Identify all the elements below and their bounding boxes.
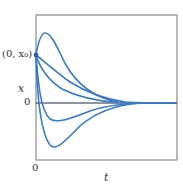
curve-overshoot — [36, 33, 177, 103]
y-axis-label: x — [18, 83, 24, 94]
curve-mid-low — [36, 55, 177, 103]
start-point-label: (0, x₀) — [2, 49, 32, 59]
x-zero-tick-label: 0 — [32, 163, 38, 173]
y-zero-tick-label: 0 — [24, 97, 30, 107]
start-point — [34, 53, 39, 58]
plot-frame — [36, 15, 177, 160]
curves — [36, 33, 177, 147]
x-axis-label: t — [104, 172, 108, 183]
curve-mid-high — [36, 55, 177, 103]
